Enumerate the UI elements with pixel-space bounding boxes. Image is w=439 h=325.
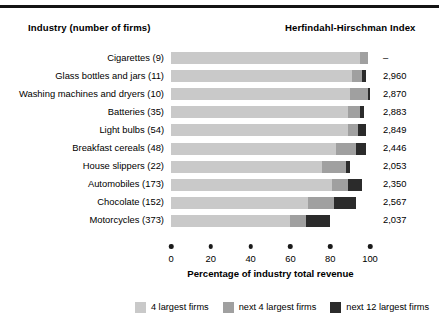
industry-label: Cigarettes (9) [107,52,164,63]
legend-label: 4 largest firms [151,302,209,312]
bar-segment [171,106,348,118]
bar-segment [332,179,348,191]
bar-segment [334,197,356,209]
stacked-bar [171,143,370,155]
bar-segment [352,70,362,82]
legend-label: next 4 largest firms [239,302,317,312]
bar-segment [368,88,370,100]
industry-label: Automobiles (173) [88,178,164,189]
bar-segment [360,52,368,64]
table-row: Cigarettes (9)– [0,51,439,69]
stacked-bar [171,106,370,118]
bar-segment [348,106,360,118]
industry-label: Washing machines and dryers (10) [19,88,164,99]
hhi-value: 2,037 [383,214,406,225]
bar-segment [171,197,308,209]
industry-label: Batteries (35) [108,106,164,117]
table-row: Glass bottles and jars (11)2,960 [0,69,439,87]
legend-swatch [223,302,234,313]
bar-segment [362,70,366,82]
top-rule-divider [0,5,439,8]
bar-segment [308,197,334,209]
x-tick-label: 0 [168,253,173,264]
x-tick-label: 80 [325,253,335,264]
legend-swatch [330,302,341,313]
industry-column-header: Industry (number of firms) [28,22,151,33]
x-tick-label: 20 [206,253,216,264]
legend-label: next 12 largest firms [346,302,429,312]
bar-segment [358,124,366,136]
x-tick-dot [328,244,333,249]
bar-segment [171,179,332,191]
x-tick-dot [209,244,214,249]
bar-segment [171,124,348,136]
x-tick-dot [248,244,253,249]
hhi-value: 2,870 [383,88,406,99]
stacked-bar [171,88,370,100]
bar-segment [171,161,322,173]
table-row: Batteries (35)2,883 [0,105,439,123]
table-row: Breakfast cereals (48)2,446 [0,141,439,159]
hhi-value: 2,960 [383,70,406,81]
stacked-bar [171,52,370,64]
legend-item: next 12 largest firms [330,302,429,313]
bar-segment [336,143,356,155]
hhi-column-header: Herfindahl-Hirschman Index [285,22,416,33]
bar-segment [171,52,360,64]
bar-segment [290,215,306,227]
hhi-value: 2,446 [383,142,406,153]
x-tick-label: 60 [285,253,295,264]
table-row: Motorcycles (373)2,037 [0,213,439,231]
legend-item: 4 largest firms [135,302,209,313]
bar-segment [346,161,350,173]
industry-label: Breakfast cereals (48) [72,142,164,153]
x-tick-label: 40 [245,253,255,264]
stacked-bar [171,70,370,82]
stacked-bar [171,197,370,209]
table-row: Washing machines and dryers (10)2,870 [0,87,439,105]
x-tick-label: 100 [362,253,378,264]
industry-label: Motorcycles (373) [89,214,164,225]
bar-segment [322,161,346,173]
bar-segment [171,88,350,100]
bar-segment [171,70,352,82]
stacked-bar [171,124,370,136]
bar-segment [306,215,330,227]
hhi-value: 2,053 [383,160,406,171]
industry-label: Glass bottles and jars (11) [55,70,164,81]
stacked-bar [171,179,370,191]
bar-segment [350,88,368,100]
bar-segment [356,143,366,155]
stacked-bar [171,215,370,227]
x-tick-dot [169,244,174,249]
x-tick-dot [368,244,373,249]
bar-segment [171,215,290,227]
table-row: Light bulbs (54)2,849 [0,123,439,141]
table-row: House slippers (22)2,053 [0,159,439,177]
table-row: Automobiles (173)2,350 [0,177,439,195]
bar-segment [171,143,336,155]
hhi-value: 2,567 [383,196,406,207]
hhi-value: 2,849 [383,124,406,135]
industry-label: Chocolate (152) [97,196,164,207]
industry-label: House slippers (22) [83,160,164,171]
chart-container: Industry (number of firms) Herfindahl-Hi… [0,0,439,325]
hhi-value: 2,350 [383,178,406,189]
bar-segment [360,106,364,118]
chart-legend: 4 largest firmsnext 4 largest firmsnext … [0,299,439,315]
hhi-value: – [383,52,388,63]
legend-item: next 4 largest firms [223,302,317,313]
x-axis-title: Percentage of industry total revenue [171,268,370,279]
legend-swatch [135,302,146,313]
table-row: Chocolate (152)2,567 [0,195,439,213]
x-tick-dot [288,244,293,249]
stacked-bar [171,161,370,173]
x-axis: 020406080100 Percentage of industry tota… [0,244,439,284]
hhi-value: 2,883 [383,106,406,117]
industry-label: Light bulbs (54) [99,124,164,135]
bar-segment [348,124,358,136]
bar-segment [348,179,362,191]
